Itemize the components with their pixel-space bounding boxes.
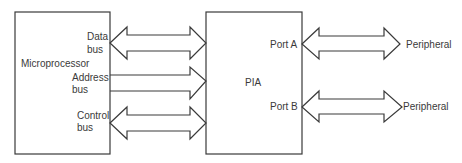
port-b-arrow (302, 91, 402, 122)
control-bus-label-line1: Control (77, 110, 109, 122)
peripheral-b-label: Peripheral (403, 101, 449, 113)
microprocessor-label: Microprocessor (21, 58, 89, 70)
port-a-label: Port A (270, 39, 297, 51)
control-bus-label-line2: bus (77, 122, 93, 134)
pia-label: PIA (245, 77, 261, 89)
address-bus-label-line1: Address (72, 72, 109, 84)
data-bus-label-line2: bus (87, 44, 103, 56)
diagram-canvas (0, 0, 462, 163)
peripheral-a-label: Peripheral (406, 39, 452, 51)
address-bus-arrow (110, 67, 206, 99)
data-bus-arrow (110, 27, 206, 59)
data-bus-label-line1: Data (87, 31, 108, 43)
port-a-arrow (302, 28, 400, 59)
port-b-label: Port B (270, 101, 298, 113)
address-bus-label-line2: bus (72, 84, 88, 96)
control-bus-arrow (110, 107, 206, 139)
